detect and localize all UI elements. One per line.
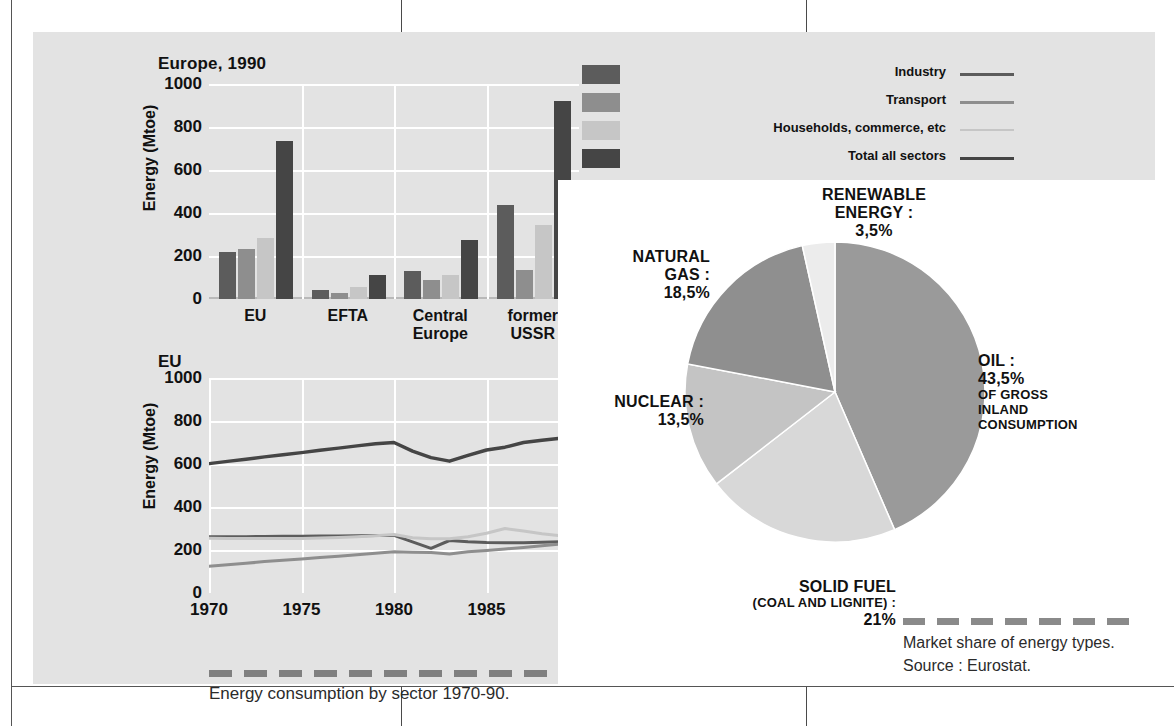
legend-item-2[interactable]: Households, commerce, etc [582, 118, 982, 146]
pie-chart-panel: RENEWABLE ENERGY : 3,5% NATURAL GAS : 18… [558, 180, 1155, 684]
legend-line-sample-icon [960, 129, 1014, 131]
line-chart-y-tick: 200 [174, 540, 202, 560]
bar[interactable] [461, 240, 478, 299]
line-chart-y-tick: 1000 [164, 368, 202, 388]
legend-line-sample-icon [960, 157, 1014, 160]
line-chart-x-tick: 1985 [468, 600, 506, 620]
dash [1005, 618, 1027, 625]
legend-swatch-icon [582, 121, 620, 140]
pie-label-natural-gas: NATURAL GAS : 18,5% [568, 248, 710, 303]
line-chart-y-axis-label: Energy (Mtoe) [141, 371, 159, 541]
legend-item-label: Transport [626, 92, 946, 107]
bar[interactable] [369, 275, 386, 299]
pie-label-nuclear: NUCLEAR : 13,5% [558, 393, 704, 429]
bar-group-2: CentralEurope [394, 84, 487, 299]
bar-chart-y-tick: 200 [174, 246, 202, 266]
bar[interactable] [497, 205, 514, 299]
bar[interactable] [350, 287, 367, 299]
bar-chart-plot-area: 02004006008001000EUEFTACentralEuropeform… [209, 84, 579, 299]
dash [524, 670, 547, 677]
line-chart-y-tick: 400 [174, 497, 202, 517]
bar-category-label: EU [244, 307, 266, 324]
line-series[interactable] [209, 542, 579, 566]
dash [454, 670, 477, 677]
bar[interactable] [238, 249, 255, 299]
bar-chart-y-axis-label: Energy (Mtoe) [141, 73, 159, 243]
page-horizontal-rule-bottom [11, 686, 1174, 687]
bar-category-label-line2: USSR [511, 325, 555, 342]
bar[interactable] [312, 290, 329, 299]
infographic-panel: Europe, 1990 Energy (Mtoe) 0200400600800… [33, 32, 1155, 684]
bar-chart-y-tick: 600 [174, 160, 202, 180]
line-chart: EU Energy (Mtoe) 02004006008001000197019… [123, 352, 583, 652]
line-chart-caption-text: Energy consumption by sector 1970-90. [209, 684, 589, 704]
legend-item-1[interactable]: Transport [582, 90, 982, 118]
legend-item-label: Total all sectors [626, 148, 946, 163]
pie-label-oil: OIL : 43,5% OF GROSS INLAND CONSUMPTION [978, 352, 1153, 433]
dash [937, 618, 959, 625]
bar-chart-y-tick: 1000 [164, 74, 202, 94]
dash [349, 670, 372, 677]
bar-category: EFTA [302, 307, 395, 325]
page-column-rule-top-2 [806, 0, 807, 33]
dash [903, 618, 925, 625]
legend-item-label: Industry [626, 64, 946, 79]
bar[interactable] [257, 238, 274, 299]
bar-category-label: Central [413, 307, 468, 324]
pie-source-title: Market share of energy types. [903, 634, 1115, 651]
line-chart-x-tick: 1975 [283, 600, 321, 620]
bar-category-label: EFTA [327, 307, 368, 324]
dash [1073, 618, 1095, 625]
line-series[interactable] [209, 529, 579, 539]
dash [314, 670, 337, 677]
legend-line-sample-icon [960, 101, 1014, 104]
dash [1039, 618, 1061, 625]
pie-source-attribution: Source : Eurostat. [903, 657, 1031, 674]
legend-item-0[interactable]: Industry [582, 62, 982, 90]
bar[interactable] [219, 252, 236, 299]
legend-item-label: Households, commerce, etc [626, 120, 946, 135]
line-chart-plot-area: 0200400600800100019701975198019851990 [209, 378, 579, 593]
bar-chart-y-tick: 800 [174, 117, 202, 137]
pie-label-renewable: RENEWABLE ENERGY : 3,5% [784, 186, 964, 241]
page-margin-rule-left [11, 0, 12, 726]
legend-line-sample-icon [960, 73, 1014, 76]
bar[interactable] [404, 271, 421, 299]
bar[interactable] [516, 270, 533, 299]
pie-chart-svg [685, 242, 985, 542]
bar-category: CentralEurope [394, 307, 487, 343]
bar[interactable] [423, 280, 440, 299]
line-chart-x-tick: 1970 [190, 600, 228, 620]
dash [279, 670, 302, 677]
line-series[interactable] [209, 435, 579, 463]
legend-swatch-icon [582, 149, 620, 168]
dash [1107, 618, 1129, 625]
dash [971, 618, 993, 625]
line-chart-y-tick: 800 [174, 411, 202, 431]
bar-group-1: EFTA [302, 84, 395, 299]
bar-chart-y-tick: 0 [193, 289, 202, 309]
line-chart-x-tick: 1980 [375, 600, 413, 620]
bar-category-label-line2: Europe [413, 325, 468, 342]
legend-item-3[interactable]: Total all sectors [582, 146, 982, 174]
pie-chart [685, 242, 985, 546]
bar[interactable] [331, 293, 348, 299]
legend-swatch-icon [582, 93, 620, 112]
dash [209, 670, 232, 677]
dashed-rule [209, 670, 589, 677]
page-column-rule-bottom-2 [806, 687, 807, 726]
bar-category-label: former [507, 307, 558, 324]
bar[interactable] [442, 275, 459, 299]
line-chart-series-svg [209, 378, 579, 593]
bar-category: EU [209, 307, 302, 325]
bar[interactable] [535, 225, 552, 299]
dashed-rule [903, 618, 1153, 625]
line-chart-caption: Energy consumption by sector 1970-90. [209, 670, 589, 704]
line-chart-y-tick: 600 [174, 454, 202, 474]
dash [384, 670, 407, 677]
bar-chart: Europe, 1990 Energy (Mtoe) 0200400600800… [123, 54, 583, 344]
bar[interactable] [276, 141, 293, 299]
page-column-rule-top-1 [401, 0, 402, 33]
bar-group-0: EU [209, 84, 302, 299]
dash [419, 670, 442, 677]
